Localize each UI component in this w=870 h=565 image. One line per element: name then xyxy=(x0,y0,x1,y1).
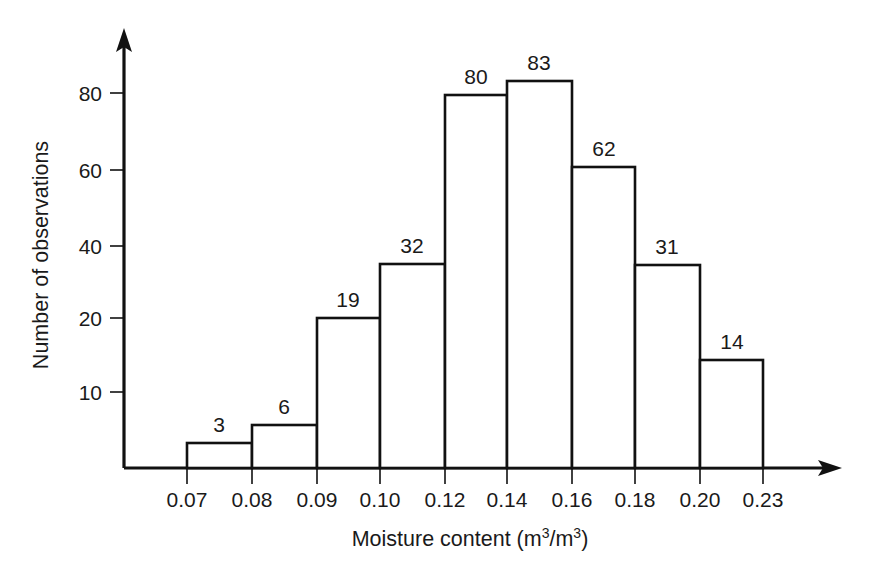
histogram-figure: 80 60 40 20 10 Number of observations 3 … xyxy=(0,0,870,565)
bar-3 xyxy=(380,264,445,468)
y-axis-title: Number of observations xyxy=(29,141,53,369)
bar-value-2: 19 xyxy=(336,288,359,311)
x-tick-label-7: 0.18 xyxy=(615,488,656,511)
x-tick-label-3: 0.10 xyxy=(360,488,401,511)
bar-2 xyxy=(317,318,380,468)
histogram-canvas: 80 60 40 20 10 Number of observations 3 … xyxy=(0,0,870,565)
y-tick-label-60: 60 xyxy=(79,159,102,182)
bar-4 xyxy=(445,95,507,468)
bar-0 xyxy=(187,443,252,468)
bar-8 xyxy=(700,360,763,468)
x-tick-label-5: 0.14 xyxy=(487,488,528,511)
y-axis xyxy=(116,28,132,468)
x-axis-ticks xyxy=(187,468,763,484)
bar-value-6: 62 xyxy=(592,137,615,160)
x-tick-label-8: 0.20 xyxy=(680,488,721,511)
y-axis-tick-labels: 80 60 40 20 10 xyxy=(79,82,102,404)
x-axis-title-mid: /m xyxy=(549,527,573,551)
x-tick-label-4: 0.12 xyxy=(425,488,466,511)
bar-6 xyxy=(572,167,635,468)
x-axis-title-main: Moisture content (m xyxy=(352,527,542,551)
bar-value-0: 3 xyxy=(213,413,225,436)
y-tick-label-40: 40 xyxy=(79,235,102,258)
x-axis-tick-labels: 0.07 0.08 0.09 0.10 0.12 0.14 0.16 0.18 … xyxy=(167,488,784,511)
y-tick-label-20: 20 xyxy=(79,307,102,330)
bar-value-4: 80 xyxy=(464,65,487,88)
bar-value-3: 32 xyxy=(400,234,423,257)
x-tick-label-2: 0.09 xyxy=(297,488,338,511)
bar-7 xyxy=(635,265,700,468)
bar-value-5: 83 xyxy=(527,51,550,74)
x-axis-title-sup2: 3 xyxy=(573,525,581,541)
y-tick-label-80: 80 xyxy=(79,82,102,105)
bar-value-7: 31 xyxy=(655,235,678,258)
bar-1 xyxy=(252,425,317,468)
bars-group xyxy=(187,81,763,468)
x-tick-label-1: 0.08 xyxy=(232,488,273,511)
x-tick-label-0: 0.07 xyxy=(167,488,208,511)
x-tick-label-9: 0.23 xyxy=(743,488,784,511)
x-axis-title-close: ) xyxy=(581,527,588,551)
y-tick-label-10: 10 xyxy=(79,381,102,404)
x-axis-title-sup1: 3 xyxy=(542,525,550,541)
bar-value-8: 14 xyxy=(720,330,744,353)
bar-value-1: 6 xyxy=(278,395,290,418)
x-tick-label-6: 0.16 xyxy=(552,488,593,511)
bar-5 xyxy=(507,81,572,468)
x-axis-title: Moisture content (m3/m3) xyxy=(352,525,589,551)
y-axis-ticks xyxy=(110,93,124,392)
